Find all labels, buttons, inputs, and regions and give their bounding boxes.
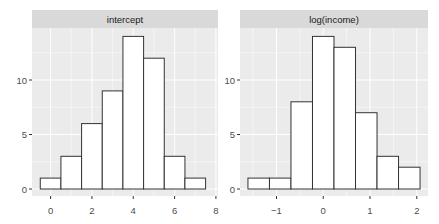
x-tick-label: 2 <box>89 205 94 216</box>
histogram-bar <box>185 178 206 189</box>
x-tick-label: 0 <box>321 205 326 216</box>
histogram-bar <box>312 36 334 189</box>
y-tick-label: 0 <box>230 184 235 195</box>
x-tick-label: 2 <box>414 205 419 216</box>
histogram-bar <box>399 167 421 189</box>
histogram-bar <box>269 178 291 189</box>
histogram-bar <box>61 156 82 189</box>
histogram-bar <box>356 113 378 189</box>
y-tick-label: 5 <box>230 129 235 140</box>
histogram-bar <box>291 102 313 189</box>
x-tick-label: 1 <box>367 205 372 216</box>
faceted-histogram: intercept024680510log(income)−10120510 <box>0 0 439 224</box>
histogram-bar <box>334 47 356 189</box>
x-tick-label: −1 <box>271 205 282 216</box>
histogram-bar <box>144 58 165 189</box>
histogram-bar <box>102 91 123 189</box>
facet-panel-1: log(income)−10120510 <box>224 10 428 216</box>
histogram-bar <box>40 178 61 189</box>
histogram-bar <box>123 36 144 189</box>
histogram-bar <box>377 156 399 189</box>
x-tick-label: 0 <box>48 205 53 216</box>
histogram-bar <box>82 124 103 189</box>
x-tick-label: 4 <box>131 205 136 216</box>
histogram-bar <box>164 156 185 189</box>
histogram-bar <box>248 178 270 189</box>
facet-title: intercept <box>107 14 144 25</box>
y-tick-label: 10 <box>224 75 235 86</box>
facet-title: log(income) <box>309 14 359 25</box>
x-tick-label: 8 <box>213 205 218 216</box>
x-tick-label: 6 <box>172 205 177 216</box>
facet-panel-0: intercept024680510 <box>16 10 218 216</box>
y-tick-label: 0 <box>22 184 27 195</box>
y-tick-label: 10 <box>16 75 27 86</box>
y-tick-label: 5 <box>22 129 27 140</box>
